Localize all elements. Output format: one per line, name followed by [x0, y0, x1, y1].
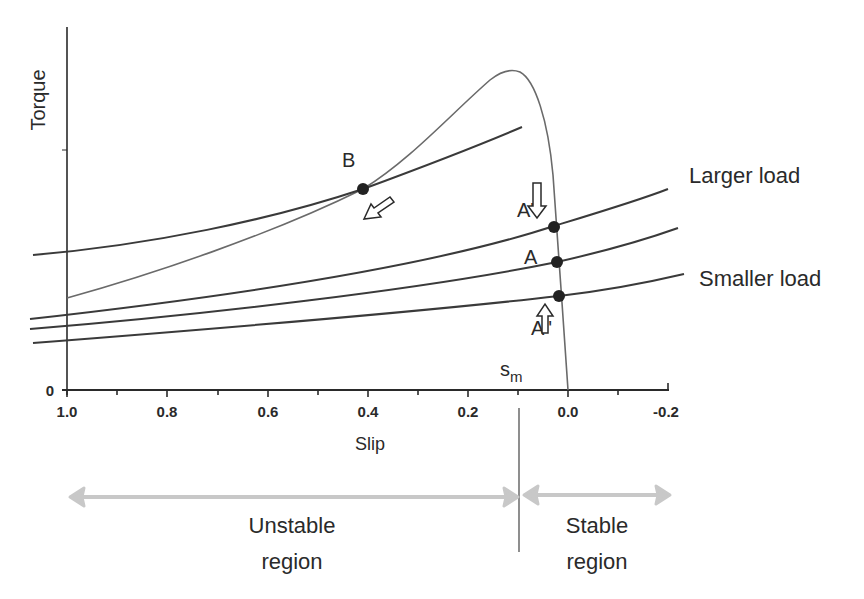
- unstable-region-label-1: Unstable: [249, 513, 336, 538]
- x-tick-label: 0.0: [558, 403, 579, 420]
- x-tick-label: 1.0: [57, 403, 78, 420]
- x-tick-label: 0.8: [157, 403, 178, 420]
- torque-slip-diagram: 0 1.0 0.8 0.6 0.4 0.2 0.0 -0.2 Torque Sl…: [0, 0, 864, 599]
- unstable-region-label-2: region: [261, 549, 322, 574]
- x-axis-label: Slip: [355, 434, 385, 454]
- motor-torque-curve: [67, 70, 568, 390]
- x-tick-label: 0.6: [258, 403, 279, 420]
- stable-region-label-2: region: [566, 549, 627, 574]
- x-tick-label: 0.2: [458, 403, 479, 420]
- label-a: A: [524, 246, 538, 268]
- point-b: [357, 183, 369, 195]
- x-tick-label: -0.2: [653, 403, 679, 420]
- stable-region-label-1: Stable: [566, 513, 628, 538]
- arrow-left-icon: [524, 486, 538, 504]
- smaller-load-label: Smaller load: [699, 266, 821, 291]
- point-a-prime: [548, 221, 560, 233]
- arrow-left-icon: [70, 488, 84, 506]
- arrow-right-icon: [656, 486, 670, 504]
- load-line-b: [33, 127, 522, 255]
- load-line-smaller: [33, 274, 684, 343]
- label-sm: sm: [500, 358, 523, 385]
- point-a: [551, 256, 563, 268]
- y-axis-label: Torque: [27, 69, 49, 130]
- label-b: B: [342, 149, 355, 171]
- point-a-double-prime: [553, 290, 565, 302]
- larger-load-label: Larger load: [689, 163, 800, 188]
- arrow-down-left-icon: [364, 197, 394, 219]
- arrow-right-icon: [504, 488, 518, 506]
- load-line-larger: [30, 189, 668, 319]
- y-tick-label-0: 0: [46, 382, 54, 399]
- x-tick-label: 0.4: [358, 403, 380, 420]
- axes: 0 1.0 0.8 0.6 0.4 0.2 0.0 -0.2 Torque Sl…: [27, 27, 679, 454]
